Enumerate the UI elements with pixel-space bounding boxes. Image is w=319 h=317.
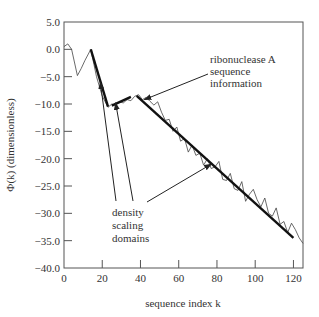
y-tick-label: 0.0 (46, 43, 60, 55)
x-tick-label: 80 (211, 272, 223, 284)
y-tick-label: −30.0 (35, 207, 61, 219)
x-tick-label: 120 (285, 272, 302, 284)
y-tick-label: −10.0 (35, 98, 61, 110)
y-tick-label: 5.0 (46, 16, 60, 28)
density-domains-annotation-text: scaling (112, 219, 144, 231)
y-tick-label: −40.0 (35, 262, 61, 274)
y-tick-label: −15.0 (35, 125, 61, 137)
density-domains-annotation-text: density (112, 206, 144, 218)
y-tick-label: −5.0 (40, 71, 60, 83)
chart: 020406080100120 5.00.0−5.0−10.0−15.0−20.… (0, 0, 319, 317)
y-tick-label: −25.0 (35, 180, 61, 192)
scaling-domain-line (91, 49, 108, 106)
y-axis-label: Φ(k) (dimensionless) (4, 98, 17, 192)
y-axis-ticks: 5.00.0−5.0−10.0−15.0−20.0−25.0−30.0−35.0… (35, 16, 72, 274)
x-axis-ticks: 020406080100120 (61, 260, 302, 284)
ribonuclease-annotation-text: sequence (210, 65, 250, 77)
scaling-domain-line (112, 97, 131, 106)
x-tick-label: 40 (135, 272, 147, 284)
annotation-arrow (144, 74, 208, 100)
annotation-arrow (147, 164, 211, 202)
x-tick-label: 20 (97, 272, 109, 284)
ribonuclease-annotation-text: information (210, 77, 262, 89)
y-tick-label: −35.0 (35, 235, 61, 247)
scaling-domain-line (137, 96, 294, 238)
ribonuclease-annotation-text: ribonuclease A (210, 53, 276, 65)
x-tick-label: 0 (61, 272, 67, 284)
x-axis-label: sequence index k (145, 297, 221, 309)
annotation-arrow (116, 103, 133, 201)
density-domains-annotation-text: domains (112, 232, 149, 244)
annotation-arrow (100, 82, 116, 201)
y-tick-label: −20.0 (35, 153, 61, 165)
x-tick-label: 100 (247, 272, 264, 284)
annotations: ribonuclease Asequenceinformationdensity… (100, 53, 275, 244)
data-series (64, 44, 303, 244)
x-tick-label: 60 (173, 272, 185, 284)
